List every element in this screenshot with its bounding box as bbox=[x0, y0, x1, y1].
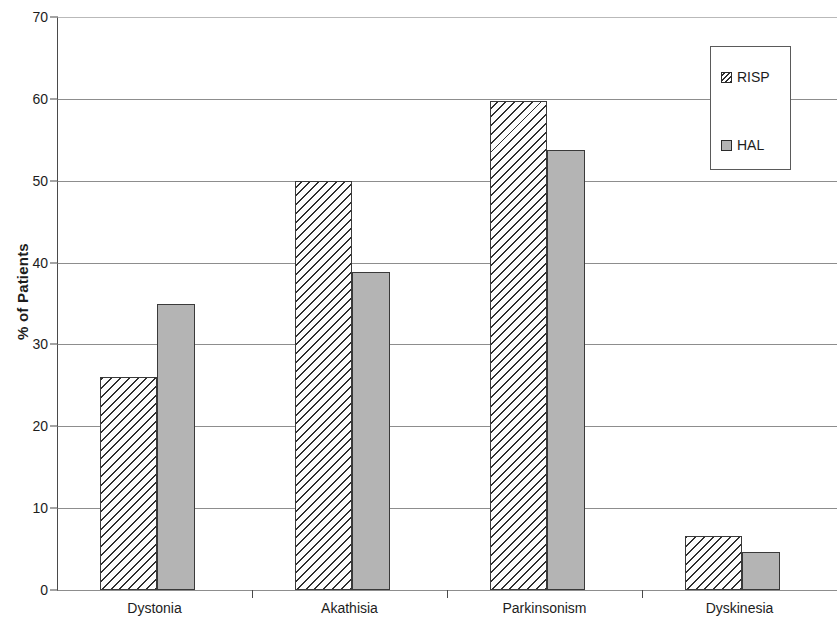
y-tick-label: 40 bbox=[2, 255, 48, 271]
legend-label-hal: HAL bbox=[737, 137, 764, 153]
legend-swatch-risp-icon bbox=[721, 72, 732, 83]
legend: RISP HAL bbox=[710, 46, 791, 170]
y-tick-label: 30 bbox=[2, 336, 48, 352]
bar-risp-dystonia bbox=[100, 377, 157, 590]
y-tick-label: 70 bbox=[2, 9, 48, 25]
x-tick-mark bbox=[252, 590, 253, 598]
legend-label-risp: RISP bbox=[737, 69, 770, 85]
y-tick-label: 0 bbox=[2, 582, 48, 598]
bar-hal-akathisia bbox=[352, 272, 390, 590]
bar-risp-akathisia bbox=[295, 181, 352, 590]
x-tick-mark bbox=[642, 590, 643, 598]
y-tick-mark bbox=[50, 262, 58, 263]
gridline bbox=[57, 263, 837, 264]
bar-risp-dyskinesia bbox=[685, 536, 742, 590]
bar-hal-dystonia bbox=[157, 304, 195, 590]
y-tick-label: 50 bbox=[2, 173, 48, 189]
gridline bbox=[57, 181, 837, 182]
y-tick-label: 20 bbox=[2, 418, 48, 434]
y-axis-title: % of Patients bbox=[14, 192, 31, 392]
y-tick-mark bbox=[50, 426, 58, 427]
y-tick-mark bbox=[50, 98, 58, 99]
x-category-label-akathisia: Akathisia bbox=[260, 600, 440, 616]
y-tick-mark bbox=[50, 17, 58, 18]
y-tick-mark bbox=[50, 590, 58, 591]
y-tick-label: 60 bbox=[2, 91, 48, 107]
y-tick-label: 10 bbox=[2, 500, 48, 516]
y-tick-mark bbox=[50, 180, 58, 181]
legend-swatch-hal-icon bbox=[721, 140, 732, 151]
bar-hal-dyskinesia bbox=[742, 552, 780, 590]
bar-hal-parkinsonism bbox=[547, 150, 585, 590]
y-tick-mark bbox=[50, 508, 58, 509]
x-tick-mark bbox=[447, 590, 448, 598]
x-category-label-dyskinesia: Dyskinesia bbox=[650, 600, 830, 616]
bar-chart: % of Patients 010203040506070 DystoniaAk… bbox=[0, 0, 837, 618]
legend-entry-risp: RISP bbox=[721, 69, 770, 85]
x-category-label-parkinsonism: Parkinsonism bbox=[455, 600, 635, 616]
x-category-label-dystonia: Dystonia bbox=[65, 600, 245, 616]
gridline bbox=[57, 17, 837, 18]
legend-entry-hal: HAL bbox=[721, 137, 764, 153]
y-tick-mark bbox=[50, 344, 58, 345]
bar-risp-parkinsonism bbox=[490, 101, 547, 591]
